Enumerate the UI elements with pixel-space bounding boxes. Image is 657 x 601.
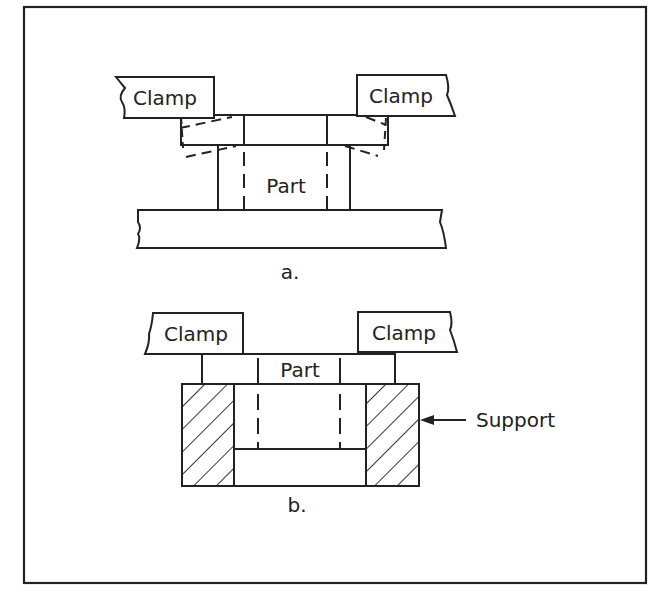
caption-b: b. [287, 493, 306, 517]
clamping-diagram: Clamp Clamp Part a. Clamp Clamp Part Sup… [0, 0, 657, 601]
clamp-left-label-a: Clamp [133, 86, 197, 110]
support-cavity [234, 384, 366, 486]
part-label-b: Part [280, 358, 320, 382]
support-arrow-head [420, 415, 434, 425]
clamp-right-label-b: Clamp [372, 321, 436, 345]
clamp-left-label-b: Clamp [164, 322, 228, 346]
support-label: Support [476, 408, 555, 432]
base-plate [137, 210, 446, 248]
clamp-right-label-a: Clamp [369, 84, 433, 108]
part-label-a: Part [266, 174, 306, 198]
figure-frame [24, 7, 646, 583]
caption-a: a. [281, 260, 300, 284]
support-right-wall [366, 384, 419, 486]
deflection-line-left-bottom [186, 146, 236, 157]
support-left-wall [182, 384, 234, 486]
part-flange [181, 115, 388, 145]
